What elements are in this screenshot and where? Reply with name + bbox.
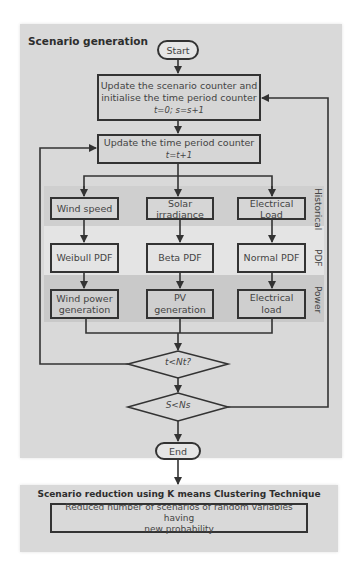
wind-speed-box: Wind speed [50, 197, 119, 220]
update-scenario-line2: initialise the time period counter [101, 92, 257, 104]
wind-power-generation-box: Wind power generation [50, 289, 119, 319]
wind-speed-label: Wind speed [57, 203, 113, 215]
electrical-load-power-box: Electrical load [237, 289, 306, 319]
update-scenario-formula: t=0; s=s+1 [154, 104, 204, 116]
power-band-label: Power [313, 286, 323, 313]
reduced-line1: Reduced number of scenarios of random va… [52, 502, 306, 524]
beta-pdf-label: Beta PDF [158, 252, 201, 264]
decision-scenario-text: S<Ns [148, 400, 208, 410]
start-terminal: Start [157, 40, 199, 60]
wind-power-line1: Wind power [56, 293, 112, 304]
normal-pdf-label: Normal PDF [244, 252, 300, 264]
scenario-reduction-title: Scenario reduction using K means Cluster… [20, 489, 338, 499]
weibull-pdf-label: Weibull PDF [56, 252, 112, 264]
update-time-counter-box: Update the time period counter t=t+1 [97, 134, 261, 164]
update-time-formula: t=t+1 [166, 149, 192, 161]
pv-generation-box: PV generation [146, 289, 214, 319]
wind-power-line2: generation [59, 304, 111, 315]
solar-line1: Solar [168, 198, 192, 209]
electrical-load-label: Electrical load [239, 292, 304, 316]
pv-generation-label: PV generation [148, 292, 212, 316]
decision-time-text: t<Nt? [148, 357, 208, 367]
solar-line2: irradiance [156, 209, 204, 220]
beta-pdf-box: Beta PDF [146, 243, 214, 273]
electrical-line2: Load [260, 209, 283, 220]
reduced-scenarios-box: Reduced number of scenarios of random va… [50, 503, 308, 533]
reduced-line2: new probability [144, 524, 213, 535]
electrical-load-historical-box: Electrical Load [237, 197, 306, 220]
update-scenario-line1: Update the scenario counter and [101, 80, 258, 92]
historical-band-label: Historical [313, 188, 323, 230]
end-terminal: End [155, 442, 201, 460]
electrical-line1: Electrical [250, 198, 294, 209]
normal-pdf-box: Normal PDF [237, 243, 306, 273]
solar-irradiance-box: Solar irradiance [146, 197, 214, 220]
update-scenario-counter-box: Update the scenario counter and initiali… [97, 74, 261, 121]
pdf-band-label: PDF [313, 249, 323, 267]
weibull-pdf-box: Weibull PDF [50, 243, 119, 273]
update-time-line1: Update the time period counter [104, 137, 254, 149]
